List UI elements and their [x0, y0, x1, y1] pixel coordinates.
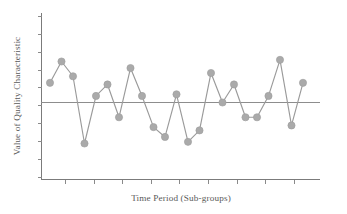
data-point-marker [196, 127, 203, 134]
data-point-marker [92, 92, 99, 99]
data-point-marker [265, 92, 272, 99]
data-point-marker [46, 79, 53, 86]
data-point-marker [253, 114, 260, 121]
data-point-marker [161, 133, 168, 140]
data-point-marker [173, 91, 180, 98]
data-point-marker [127, 64, 134, 71]
data-point-marker [81, 140, 88, 147]
data-point-marker [184, 138, 191, 145]
data-point-marker [115, 114, 122, 121]
data-point-marker [69, 73, 76, 80]
data-point-marker [299, 79, 306, 86]
data-point-marker [219, 99, 226, 106]
data-point-marker [138, 92, 145, 99]
data-point-marker [288, 122, 295, 129]
y-axis-title: Value of Quality Characteristic [12, 37, 22, 156]
data-point-marker [58, 58, 65, 65]
data-point-marker [276, 56, 283, 63]
data-point-marker [207, 69, 214, 76]
data-point-marker [104, 81, 111, 88]
data-point-marker [230, 81, 237, 88]
run-chart-figure: Time Period (Sub-groups) Value of Qualit… [0, 0, 347, 214]
data-point-marker [242, 114, 249, 121]
data-point-marker [150, 124, 157, 131]
x-axis-title: Time Period (Sub-groups) [131, 193, 231, 203]
chart-canvas: Time Period (Sub-groups) Value of Qualit… [0, 0, 347, 214]
